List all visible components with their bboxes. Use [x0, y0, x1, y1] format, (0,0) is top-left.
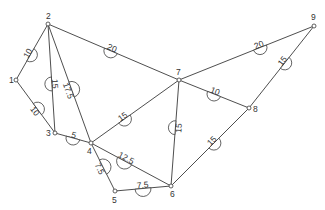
node-label: 4: [87, 146, 92, 156]
node-label: 5: [112, 195, 117, 205]
edge-weight-label: 20: [253, 38, 267, 54]
node-3: 3: [46, 128, 57, 138]
edge-weight-label: 17.5: [61, 81, 80, 100]
edge-weight-text: 15: [50, 79, 61, 89]
edges-layer: [16, 24, 314, 191]
node-label: 3: [46, 128, 51, 138]
node-4: 4: [87, 141, 93, 156]
edge-weight-label: 10: [207, 85, 222, 101]
nodes-layer: 123456789: [9, 11, 316, 205]
node-marker: [169, 184, 173, 188]
node-6: 6: [169, 184, 175, 199]
edge-4-7: [91, 80, 179, 143]
node-7: 7: [176, 67, 181, 82]
node-marker: [53, 131, 57, 135]
node-label: 2: [46, 11, 51, 21]
edge-weight-text: 7.5: [136, 179, 149, 190]
edge-weight-text: 15: [173, 123, 184, 133]
edge-weight-label: 20: [104, 42, 119, 58]
node-2: 2: [46, 11, 51, 26]
node-marker: [177, 78, 181, 82]
node-label: 8: [253, 104, 258, 114]
node-5: 5: [112, 189, 117, 205]
edge-weight-label: 15: [205, 134, 221, 150]
node-marker: [89, 141, 93, 145]
node-marker: [14, 78, 18, 82]
node-marker: [46, 22, 50, 26]
node-label: 1: [9, 75, 14, 85]
node-1: 1: [9, 75, 18, 85]
node-label: 9: [311, 12, 316, 22]
edge-weight-label: 15: [275, 54, 291, 70]
weighted-graph-diagram: 10101517.52051512.57.57.51515102015 1234…: [0, 0, 325, 210]
edge-weight-label: 7.5: [135, 179, 151, 196]
edge-7-9: [179, 26, 314, 80]
node-marker: [113, 189, 117, 193]
node-label: 7: [176, 67, 181, 77]
node-label: 6: [170, 189, 175, 199]
node-marker: [312, 24, 316, 28]
node-8: 8: [247, 104, 258, 114]
edge-weight-label: 10: [21, 46, 37, 61]
edge-weight-label: 7.5: [93, 159, 111, 176]
node-9: 9: [311, 12, 316, 28]
edge-weight-label: 5: [66, 130, 80, 145]
edge-weight-label: 15: [168, 121, 183, 135]
node-marker: [247, 106, 251, 110]
